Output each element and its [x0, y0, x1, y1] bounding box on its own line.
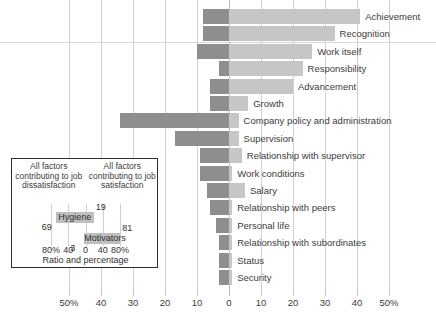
inset-plot-area: Hygiene6919Motivators381	[12, 204, 159, 246]
inset-tick-label-0: 0	[83, 245, 88, 255]
bar-dissatisfaction	[219, 61, 229, 76]
bar-satisfaction	[229, 253, 232, 268]
bar-satisfaction	[229, 235, 232, 250]
inset-value-satisfaction: 81	[122, 223, 132, 233]
x-tick-label-40: 40	[352, 297, 363, 308]
bar-category-label: Status	[237, 253, 264, 268]
bar-category-label: Relationship with supervisor	[247, 148, 365, 163]
bar-dissatisfaction	[200, 148, 229, 163]
bar-satisfaction	[229, 131, 239, 146]
bar-row: Security	[0, 270, 436, 285]
x-tick-label--20: 20	[160, 297, 171, 308]
x-tick-label-30: 30	[320, 297, 331, 308]
x-tick-mark-30	[325, 290, 326, 296]
bar-satisfaction	[229, 26, 335, 41]
inset-tick-label--80: 80%	[42, 245, 60, 255]
bar-row: Advancement	[0, 79, 436, 94]
bar-row: Achievement	[0, 9, 436, 24]
x-tick-mark--10	[197, 290, 198, 296]
bar-category-label: Supervision	[244, 131, 294, 146]
chart-page: AchievementRecognitionWork itselfRespons…	[0, 0, 436, 319]
bar-dissatisfaction	[216, 218, 229, 233]
bar-category-label: Achievement	[365, 9, 420, 24]
bar-satisfaction	[229, 9, 360, 24]
bar-satisfaction	[229, 218, 232, 233]
inset-tick-label--40: 40	[63, 245, 73, 255]
bar-satisfaction	[229, 79, 293, 94]
x-tick-mark-50	[389, 290, 390, 296]
bar-row: Recognition	[0, 26, 436, 41]
bar-category-label: Security	[237, 270, 271, 285]
bar-category-label: Relationship with subordinates	[237, 235, 366, 250]
bar-row: Work itself	[0, 44, 436, 59]
bar-dissatisfaction	[219, 235, 229, 250]
bar-satisfaction	[229, 96, 248, 111]
bar-category-label: Relationship with peers	[237, 200, 335, 215]
x-tick-mark--30	[133, 290, 134, 296]
inset-headings: All factors contributing to job dissatis…	[12, 162, 159, 191]
inset-legend-panel: All factors contributing to job dissatis…	[11, 158, 158, 268]
x-tick-mark-20	[293, 290, 294, 296]
inset-tick-label-40: 40	[98, 245, 108, 255]
x-tick-label--30: 30	[128, 297, 139, 308]
x-tick-label--40: 40	[96, 297, 107, 308]
x-tick-label-20: 20	[288, 297, 299, 308]
bar-category-label: Personal life	[237, 218, 289, 233]
bar-category-label: Work conditions	[237, 166, 304, 181]
bar-row: Growth	[0, 96, 436, 111]
x-tick-label--10: 10	[192, 297, 203, 308]
x-tick-mark-40	[357, 290, 358, 296]
bar-category-label: Salary	[250, 183, 277, 198]
bar-dissatisfaction	[207, 183, 229, 198]
inset-caption: Ratio and percentage	[12, 255, 159, 265]
bar-category-label: Responsibility	[308, 61, 367, 76]
bar-dissatisfaction	[120, 113, 229, 128]
bar-category-label: Growth	[253, 96, 284, 111]
x-axis: 50%4030201001020304050%	[0, 296, 436, 319]
bar-category-label: Advancement	[298, 79, 356, 94]
bar-dissatisfaction	[197, 44, 229, 59]
bar-satisfaction	[229, 270, 232, 285]
x-tick-mark-10	[261, 290, 262, 296]
bar-row: Supervision	[0, 131, 436, 146]
x-tick-mark--40	[101, 290, 102, 296]
bar-satisfaction	[229, 113, 239, 128]
inset-heading-left: All factors contributing to job dissatis…	[12, 162, 86, 191]
x-tick-label-50: 50%	[379, 297, 398, 308]
bar-row: Responsibility	[0, 61, 436, 76]
inset-value-satisfaction: 19	[96, 202, 106, 212]
bar-row: Company policy and administration	[0, 113, 436, 128]
bar-dissatisfaction	[203, 26, 229, 41]
bar-category-label: Work itself	[317, 44, 361, 59]
bar-dissatisfaction	[219, 253, 229, 268]
inset-bar-label: Hygiene	[56, 212, 94, 223]
x-tick-label-10: 10	[256, 297, 267, 308]
bar-dissatisfaction	[210, 96, 229, 111]
bar-dissatisfaction	[200, 166, 229, 181]
bar-category-label: Recognition	[340, 26, 390, 41]
x-tick-label-0: 0	[226, 297, 231, 308]
bar-dissatisfaction	[203, 9, 229, 24]
bar-dissatisfaction	[175, 131, 229, 146]
x-tick-mark-0	[229, 290, 230, 296]
bar-category-label: Company policy and administration	[244, 113, 392, 128]
x-tick-label--50: 50%	[59, 297, 78, 308]
bar-dissatisfaction	[219, 270, 229, 285]
bar-dissatisfaction	[210, 79, 229, 94]
bar-satisfaction	[229, 61, 303, 76]
bar-satisfaction	[229, 148, 242, 163]
x-tick-mark--20	[165, 290, 166, 296]
inset-gridline--40	[68, 204, 69, 246]
bar-dissatisfaction	[210, 200, 229, 215]
inset-heading-right: All factors contributing to job satisfac…	[86, 162, 160, 191]
bar-satisfaction	[229, 44, 312, 59]
x-tick-mark--50	[69, 290, 70, 296]
bar-satisfaction	[229, 200, 232, 215]
inset-tick-label-80: 80%	[111, 245, 129, 255]
bar-satisfaction	[229, 166, 232, 181]
inset-value-dissatisfaction: 69	[42, 222, 52, 232]
bar-satisfaction	[229, 183, 245, 198]
